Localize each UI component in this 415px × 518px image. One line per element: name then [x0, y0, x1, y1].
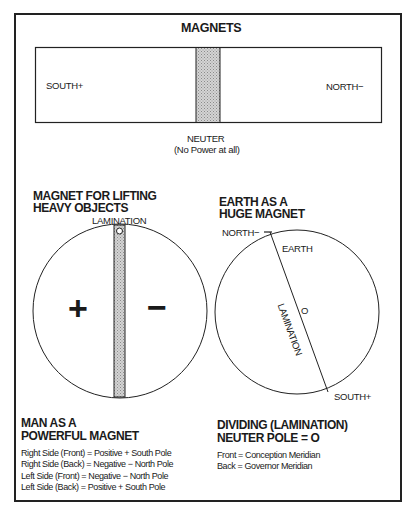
- positive-sign: +: [68, 291, 88, 325]
- man-magnet-line: Right Side (Front) = Positive + South Po…: [21, 448, 171, 460]
- lifting-magnet-heading-2: HEAVY OBJECTS: [33, 202, 128, 214]
- dividing-heading-1: DIVIDING (LAMINATION): [217, 419, 348, 431]
- negative-sign: −: [147, 290, 167, 324]
- earth-magnet-diagram: [215, 230, 379, 394]
- lifting-magnet-diagram: [33, 224, 207, 398]
- neuter-zone: [196, 48, 220, 123]
- north-pole-label: NORTH−: [326, 81, 363, 92]
- lamination-label: LAMINATION: [92, 215, 146, 226]
- dividing-heading-2: NEUTER POLE = O: [217, 432, 319, 444]
- lamination-marker: [117, 228, 123, 234]
- man-magnet-heading-1: MAN AS A: [21, 417, 76, 429]
- earth-south-label: SOUTH+: [334, 391, 371, 402]
- man-magnet-line: Left Side (Front) = Negative − North Pol…: [21, 471, 168, 483]
- dividing-line: Back = Governor Meridian: [217, 461, 312, 473]
- lamination-bar: [114, 225, 125, 397]
- magnets-title: MAGNETS: [181, 21, 241, 35]
- man-magnet-line: Left Side (Back) = Positive + South Pole: [21, 482, 165, 494]
- earth-north-label: NORTH−: [222, 227, 259, 238]
- dividing-line: Front = Conception Meridian: [217, 450, 320, 462]
- man-magnet-heading-2: POWERFUL MAGNET: [21, 430, 139, 442]
- man-magnet-line: Right Side (Back) = Negative − North Pol…: [21, 459, 173, 471]
- earth-lamination-marker: O: [301, 305, 308, 316]
- neuter-note: (No Power at all): [174, 144, 240, 155]
- earth-label: EARTH: [282, 243, 313, 254]
- south-pole-label: SOUTH+: [46, 80, 83, 91]
- earth-magnet-heading-2: HUGE MAGNET: [219, 208, 305, 220]
- neuter-label: NEUTER: [187, 133, 224, 144]
